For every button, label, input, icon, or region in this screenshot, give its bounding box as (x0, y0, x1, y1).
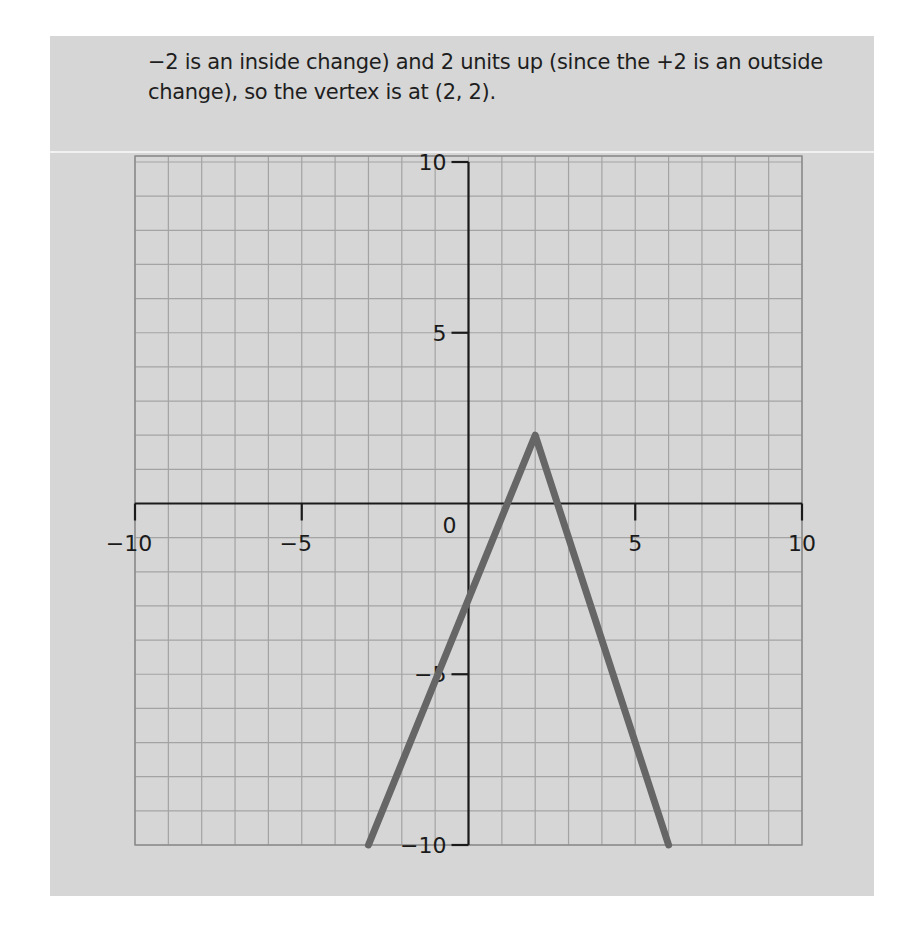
y-tick-label: −10 (400, 833, 446, 858)
x-tick-label: −10 (106, 531, 152, 556)
origin-label: 0 (443, 513, 457, 538)
y-tick-label: 10 (419, 150, 447, 175)
x-tick-label: 5 (628, 531, 642, 556)
y-tick-label: 5 (433, 321, 447, 346)
x-tick-label: 10 (788, 531, 816, 556)
coordinate-plane: −10−5510105−5−100 (0, 0, 921, 928)
x-tick-label: −5 (280, 531, 312, 556)
